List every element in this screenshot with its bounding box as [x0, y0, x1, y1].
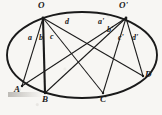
segment-OB: [43, 18, 45, 93]
segment-OD: [43, 18, 143, 76]
segment-label-b: b: [39, 34, 43, 42]
geometry-figure: O O' A B C D a b c d a' b' c' d': [0, 0, 162, 115]
vertex-label-D: D: [145, 70, 152, 79]
segment-label-a-prime: a': [98, 18, 104, 26]
vertex-label-O: O: [38, 1, 45, 10]
segment-label-c: c: [50, 33, 54, 41]
segment-OpB: [45, 18, 126, 93]
vertex-label-A: A: [14, 85, 20, 94]
vertex-label-B: B: [42, 95, 48, 104]
figure-canvas: [0, 0, 162, 115]
segment-label-b-prime: b': [107, 26, 113, 34]
segment-label-d-prime: d': [132, 34, 138, 42]
vertex-dot-O: [42, 17, 45, 20]
conic-ellipse: [7, 12, 157, 98]
vertex-dot-A: [21, 85, 23, 87]
segment-label-d: d: [65, 18, 69, 26]
segment-OC: [43, 18, 103, 93]
vertex-label-C: C: [100, 95, 106, 104]
vertex-label-Oprime: O': [119, 1, 128, 10]
segment-label-c-prime: c': [118, 34, 124, 42]
vertex-dot-Op: [125, 17, 128, 20]
vertex-dot-D: [142, 75, 144, 77]
segment-label-a: a: [28, 34, 32, 42]
segment-OA: [22, 18, 43, 86]
